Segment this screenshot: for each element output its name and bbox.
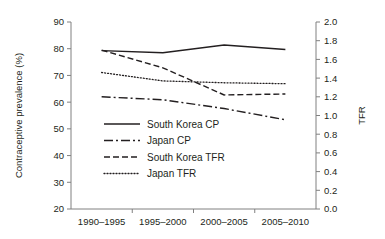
- series-line-south-korea-tfr: [102, 50, 286, 95]
- legend-label-south-korea-tfr: South Korea TFR: [147, 152, 225, 163]
- series-line-south-korea-cp: [102, 45, 286, 53]
- left-axis-tick-label: 20: [53, 203, 64, 214]
- right-axis-title: TFR: [356, 106, 367, 125]
- x-axis-category-label: 2005–2010: [262, 216, 310, 227]
- left-axis-tick-label: 40: [53, 150, 64, 161]
- chart-container: 9080706050403020Contraceptive prevalence…: [0, 0, 385, 239]
- right-axis-tick-label: 0.0: [324, 203, 337, 214]
- right-axis-tick-label: 1.8: [324, 35, 337, 46]
- right-axis-tick-label: 0.4: [324, 166, 337, 177]
- series-line-japan-tfr: [102, 72, 286, 83]
- left-axis-title: Contraceptive prevalence (%): [13, 53, 24, 178]
- series-line-japan-cp: [102, 97, 286, 120]
- left-axis-tick-label: 70: [53, 70, 64, 81]
- x-axis-category-label: 1990–1995: [78, 216, 126, 227]
- legend-label-south-korea-cp: South Korea CP: [147, 119, 220, 130]
- left-axis-tick-label: 90: [53, 16, 64, 27]
- left-axis-tick-label: 50: [53, 123, 64, 134]
- right-axis-tick-label: 2.0: [324, 16, 337, 27]
- x-axis-category-label: 1995–2000: [139, 216, 187, 227]
- right-axis-tick-label: 1.0: [324, 110, 337, 121]
- right-axis-tick-label: 1.6: [324, 54, 337, 65]
- legend-label-japan-cp: Japan CP: [147, 135, 191, 146]
- right-axis-tick-label: 0.2: [324, 185, 337, 196]
- right-axis-tick-label: 0.6: [324, 147, 337, 158]
- x-axis-category-label: 2000–2005: [200, 216, 248, 227]
- left-axis-tick-label: 30: [53, 177, 64, 188]
- right-axis-tick-label: 0.8: [324, 129, 337, 140]
- left-axis-tick-label: 60: [53, 97, 64, 108]
- right-axis-tick-label: 1.2: [324, 91, 337, 102]
- dual-axis-line-chart: 9080706050403020Contraceptive prevalence…: [0, 0, 385, 239]
- left-axis-tick-label: 80: [53, 43, 64, 54]
- legend-label-japan-tfr: Japan TFR: [147, 168, 196, 179]
- right-axis-tick-label: 1.4: [324, 73, 337, 84]
